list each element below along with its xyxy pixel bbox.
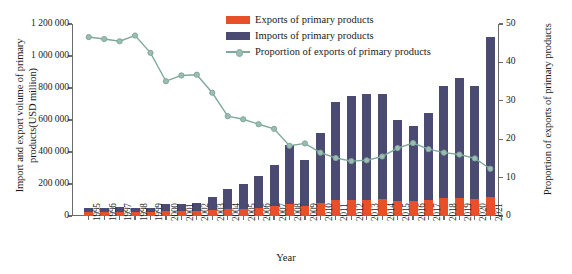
y-tick-label-left: 200 000	[38, 178, 69, 188]
proportion-line-marker	[349, 158, 354, 163]
x-tick	[243, 216, 244, 220]
x-tick	[320, 216, 321, 220]
x-tick	[474, 216, 475, 220]
x-tick	[212, 216, 213, 220]
x-tick	[428, 216, 429, 220]
y-tick-right	[499, 139, 503, 140]
proportion-line-marker	[410, 140, 415, 145]
y-axis-right-title: Proportion of exports of primary product…	[542, 4, 555, 214]
proportion-line-marker	[457, 152, 462, 157]
proportion-line-marker	[210, 90, 215, 95]
x-tick	[351, 216, 352, 220]
proportion-line-marker	[102, 36, 107, 41]
proportion-line-marker	[256, 122, 261, 127]
y-tick-label-left: 800 000	[38, 82, 69, 92]
proportion-line-marker	[148, 50, 153, 55]
proportion-line-marker	[333, 155, 338, 160]
y-tick-label-right: 20	[506, 133, 516, 143]
x-tick	[304, 216, 305, 220]
y-tick-right	[499, 177, 503, 178]
proportion-line-marker	[132, 33, 137, 38]
x-tick	[397, 216, 398, 220]
y-tick-label-right: 0	[506, 210, 511, 220]
chart-container: Import and export volume of primary prod…	[0, 0, 572, 274]
y-tick-label-left: 1 000 000	[31, 50, 69, 60]
proportion-line-marker	[86, 34, 91, 39]
legend-label: Exports of primary products	[255, 12, 374, 28]
proportion-line-marker	[271, 126, 276, 131]
x-tick	[165, 216, 166, 220]
x-tick	[443, 216, 444, 220]
y-tick-right	[499, 62, 503, 63]
x-tick	[134, 216, 135, 220]
y-tick-label-right: 50	[506, 18, 516, 28]
legend-swatch-icon	[226, 32, 250, 40]
x-tick	[382, 216, 383, 220]
x-tick	[289, 216, 290, 220]
x-tick	[150, 216, 151, 220]
y-tick-label-left: 1 200 000	[31, 18, 69, 28]
proportion-line-marker	[395, 145, 400, 150]
x-tick	[88, 216, 89, 220]
proportion-line-marker	[364, 158, 369, 163]
x-tick	[227, 216, 228, 220]
legend-line-icon	[226, 48, 250, 56]
x-tick	[412, 216, 413, 220]
proportion-line-marker	[488, 166, 493, 171]
y-axis-left-title: Import and export volume of primary prod…	[14, 11, 39, 221]
x-tick	[335, 216, 336, 220]
x-tick	[181, 216, 182, 220]
x-tick	[366, 216, 367, 220]
x-tick	[196, 216, 197, 220]
legend-label: Proportion of exports of primary product…	[255, 44, 431, 60]
legend-label: Imports of primary products	[255, 28, 374, 44]
proportion-line-marker	[179, 73, 184, 78]
x-tick	[119, 216, 120, 220]
x-axis-title: Year	[0, 252, 572, 263]
x-tick	[258, 216, 259, 220]
y-tick-label-right: 40	[506, 56, 516, 66]
x-tick	[104, 216, 105, 220]
y-tick-right	[499, 23, 503, 24]
proportion-line-marker	[426, 147, 431, 152]
legend-swatch-icon	[226, 16, 250, 24]
y-tick-label-left: 0	[64, 210, 69, 220]
proportion-line-marker	[287, 143, 292, 148]
x-tick	[490, 216, 491, 220]
proportion-line-marker	[472, 156, 477, 161]
legend-item: Proportion of exports of primary product…	[226, 44, 431, 60]
proportion-line-marker	[318, 150, 323, 155]
y-tick-label-left: 400 000	[38, 146, 69, 156]
proportion-line-marker	[117, 39, 122, 44]
legend-item: Imports of primary products	[226, 28, 431, 44]
y-tick-right	[499, 100, 503, 101]
legend-item: Exports of primary products	[226, 12, 431, 28]
x-tick	[273, 216, 274, 220]
proportion-line-marker	[194, 72, 199, 77]
proportion-line-marker	[302, 141, 307, 146]
proportion-line-marker	[441, 150, 446, 155]
proportion-line-marker	[380, 154, 385, 159]
proportion-line-marker	[241, 117, 246, 122]
proportion-line-marker	[225, 114, 230, 119]
y-tick-label-right: 10	[506, 172, 516, 182]
proportion-line-marker	[163, 79, 168, 84]
x-tick	[459, 216, 460, 220]
y-tick-label-right: 30	[506, 95, 516, 105]
chart-legend: Exports of primary productsImports of pr…	[226, 12, 431, 60]
y-tick-label-left: 600 000	[38, 114, 69, 124]
